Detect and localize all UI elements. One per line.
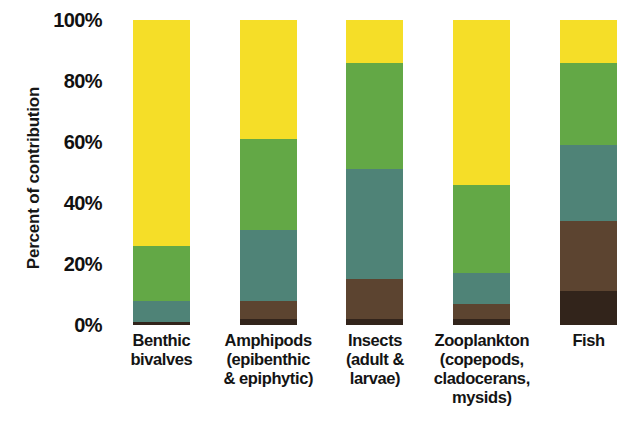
x-axis-category-labels: Benthic bivalvesAmphipods (epibenthic & … xyxy=(108,331,642,437)
stacked-bar[interactable] xyxy=(453,20,510,325)
y-axis-tick-labels: 0%20%40%60%80%100% xyxy=(28,0,102,437)
stacked-bar[interactable] xyxy=(560,20,617,325)
bar-segment-green-source xyxy=(453,185,510,273)
bar-slot xyxy=(108,20,215,325)
bar-segment-dark-brown-source xyxy=(560,291,617,325)
bar-segment-dark-brown-source xyxy=(346,319,403,325)
y-axis-tick-80: 80% xyxy=(28,71,102,91)
bar-segment-teal-source xyxy=(346,169,403,279)
bar-segment-teal-source xyxy=(453,273,510,304)
bar-segment-teal-source xyxy=(560,145,617,221)
bar-slot xyxy=(428,20,535,325)
bar-segment-yellow-source xyxy=(240,20,297,139)
y-axis-tick-20: 20% xyxy=(28,254,102,274)
bar-segment-dark-brown-source xyxy=(453,319,510,325)
y-axis-tick-100: 100% xyxy=(28,10,102,30)
x-axis-label: Fish xyxy=(517,331,642,350)
bar-segment-green-source xyxy=(346,63,403,170)
bar-segment-brown-source xyxy=(560,221,617,291)
bar-segment-green-source xyxy=(240,139,297,231)
bar-segment-teal-source xyxy=(133,301,190,322)
bar-slot xyxy=(322,20,429,325)
bar-segment-green-source xyxy=(560,63,617,145)
stacked-bar[interactable] xyxy=(240,20,297,325)
bar-slot xyxy=(535,20,642,325)
bar-segment-yellow-source xyxy=(453,20,510,185)
bar-segment-teal-source xyxy=(240,230,297,300)
stacked-bar-chart: Percent of contribution 0%20%40%60%80%10… xyxy=(0,0,642,437)
bar-segment-dark-brown-source xyxy=(133,322,190,325)
bar-segment-yellow-source xyxy=(133,20,190,246)
bar-segment-brown-source xyxy=(346,279,403,319)
bar-segment-brown-source xyxy=(453,304,510,319)
y-axis-tick-60: 60% xyxy=(28,132,102,152)
bar-segment-brown-source xyxy=(240,301,297,319)
bar-segment-yellow-source xyxy=(346,20,403,63)
bar-segment-green-source xyxy=(133,246,190,301)
bar-segment-dark-brown-source xyxy=(240,319,297,325)
stacked-bar[interactable] xyxy=(133,20,190,325)
plot-area xyxy=(108,20,642,325)
bar-segment-yellow-source xyxy=(560,20,617,63)
bar-slot xyxy=(215,20,322,325)
y-axis-tick-40: 40% xyxy=(28,193,102,213)
stacked-bar[interactable] xyxy=(346,20,403,325)
